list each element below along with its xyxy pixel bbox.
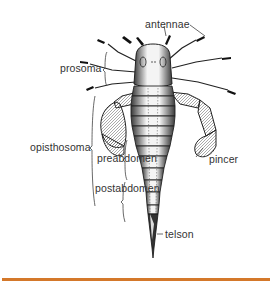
label-telson: telson <box>165 229 194 240</box>
telson-spike <box>148 214 158 258</box>
anatomy-diagram: antennae prosoma opisthosoma preabdomen … <box>0 0 272 282</box>
legs-right <box>168 40 228 90</box>
prosoma-shield <box>134 44 172 87</box>
label-antennae: antennae <box>145 19 190 30</box>
label-opisthosoma: opisthosoma <box>30 142 91 153</box>
right-pincer <box>170 92 216 157</box>
label-pincer: pincer <box>209 154 238 165</box>
label-postabdomen: postabdomen <box>95 183 160 194</box>
label-preabdomen: preabdomen <box>97 153 157 164</box>
label-prosoma: prosoma <box>60 63 102 74</box>
bottom-accent-bar <box>2 278 270 281</box>
preabdomen-segments <box>131 86 175 156</box>
